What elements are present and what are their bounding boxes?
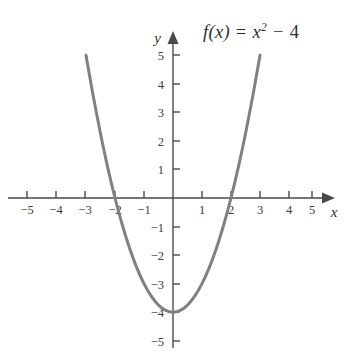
y-tick-label-neg3: −3 — [151, 278, 164, 292]
term-base: x — [253, 22, 262, 42]
x-tick-label-pos4: 4 — [286, 203, 293, 217]
close-paren: ) — [223, 22, 229, 42]
y-tick-label-pos2: 2 — [158, 135, 164, 149]
function-equation-label: f(x) = x2 − 4 — [203, 22, 299, 43]
y-tick-label-pos1: 1 — [158, 163, 164, 177]
y-tick-label-pos5: 5 — [158, 49, 164, 63]
x-tick-label-neg1: −1 — [137, 203, 150, 217]
x-tick-label-neg4: −4 — [49, 203, 63, 217]
equals-sign: = — [235, 22, 248, 42]
y-tick-label-pos3: 3 — [158, 106, 164, 120]
x-tick-label-pos3: 3 — [257, 203, 263, 217]
term-exponent: 2 — [261, 21, 267, 33]
y-tick-label-pos4: 4 — [158, 78, 165, 92]
y-tick-label-neg2: −2 — [151, 249, 164, 263]
x-tick-label-pos5: 5 — [309, 203, 315, 217]
minus-sign: − — [272, 22, 285, 42]
coordinate-plane: −5 −4 −3 −2 −1 1 2 3 4 5 x — [0, 0, 351, 358]
x-tick-label-neg3: −3 — [78, 203, 91, 217]
y-axis-label: y — [152, 30, 161, 46]
x-tick-label-neg5: −5 — [20, 203, 33, 217]
y-axis-arrowhead — [168, 31, 179, 44]
x-axis-label: x — [330, 204, 338, 220]
y-tick-label-neg1: −1 — [151, 221, 164, 235]
parabola-figure: −5 −4 −3 −2 −1 1 2 3 4 5 x — [0, 0, 351, 358]
constant-term: 4 — [290, 22, 300, 42]
x-tick-label-pos1: 1 — [199, 203, 205, 217]
x-axis-arrowhead — [322, 193, 335, 204]
y-tick-label-neg5: −5 — [151, 335, 164, 349]
